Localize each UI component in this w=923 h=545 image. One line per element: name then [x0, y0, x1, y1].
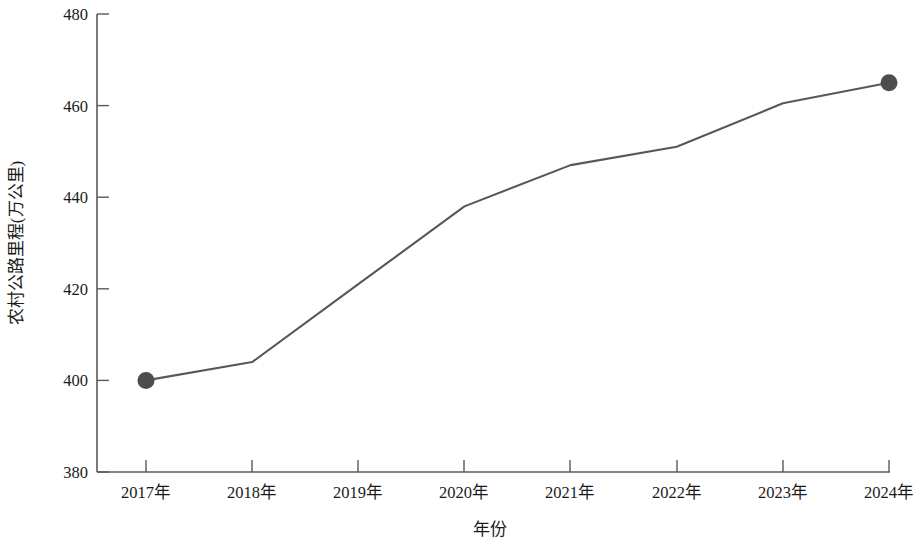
y-axis-ticks	[97, 14, 109, 472]
y-tick-label: 380	[63, 463, 88, 482]
y-tick-label: 440	[63, 188, 88, 207]
x-tick-label: 2024年	[864, 483, 914, 502]
y-tick-label: 480	[63, 5, 88, 24]
x-tick-label: 2022年	[652, 483, 702, 502]
chart-canvas: 480 460 440 420 400 380 2017年 2018年 2019…	[0, 0, 923, 545]
y-axis-title: 农村公路里程(万公里)	[7, 161, 26, 325]
data-point-marker	[138, 372, 155, 389]
x-tick-label: 2018年	[227, 483, 277, 502]
x-tick-label: 2020年	[439, 483, 489, 502]
y-tick-label: 420	[63, 280, 88, 299]
x-tick-label: 2021年	[545, 483, 595, 502]
series-markers	[138, 74, 898, 389]
x-tick-label: 2023年	[758, 483, 808, 502]
line-chart: 480 460 440 420 400 380 2017年 2018年 2019…	[0, 0, 923, 545]
x-axis-tick-labels: 2017年 2018年 2019年 2020年 2021年 2022年 2023…	[121, 483, 914, 502]
x-axis-title: 年份	[473, 520, 507, 539]
y-tick-label: 400	[63, 371, 88, 390]
x-tick-label: 2019年	[333, 483, 383, 502]
x-axis-ticks	[146, 460, 889, 472]
series-line-rural-road-mileage	[146, 83, 889, 381]
y-axis-tick-labels: 480 460 440 420 400 380	[63, 5, 88, 482]
x-tick-label: 2017年	[121, 483, 171, 502]
data-point-marker	[881, 74, 898, 91]
y-tick-label: 460	[63, 97, 88, 116]
